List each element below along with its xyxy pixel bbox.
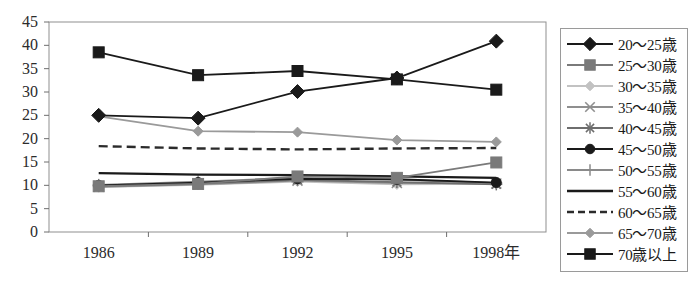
legend-item-label: 30～35歳 (615, 75, 676, 96)
y-axis-tick-label: 0 (0, 224, 38, 240)
legend-key-swatch (565, 160, 615, 180)
legend-item[interactable]: 60～65歳 (561, 201, 687, 222)
legend-item-label: 25～30歳 (615, 54, 676, 75)
legend-key-swatch (565, 244, 615, 264)
data-point-marker-square (491, 84, 502, 95)
legend-key-swatch (565, 118, 615, 138)
x-axis-tick-label: 1998年 (451, 245, 541, 261)
data-point-marker-circle (491, 178, 501, 188)
legend-item[interactable]: 50～55歳 (561, 159, 687, 180)
legend-marker-icon (565, 76, 615, 96)
data-point-marker-plus (584, 164, 595, 175)
y-axis-tick-label: 30 (0, 84, 38, 100)
data-point-marker-diamond (583, 37, 596, 50)
data-point-marker-square (93, 47, 104, 58)
x-axis-tick-label: 1986 (54, 245, 144, 261)
y-axis-tick-label: 10 (0, 177, 38, 193)
legend-key-swatch (565, 181, 615, 201)
data-point-marker-square (585, 59, 595, 69)
legend-item[interactable]: 20～25歳 (561, 33, 687, 54)
line-chart-svg (0, 0, 556, 272)
data-point-marker-square (491, 157, 502, 168)
y-axis-tick-label: 15 (0, 154, 38, 170)
y-axis-tick-label: 40 (0, 37, 38, 53)
legend-key-swatch (565, 139, 615, 159)
legend-marker-icon (565, 118, 615, 138)
data-point-marker-square (391, 172, 402, 183)
data-point-marker-circle (585, 144, 595, 154)
legend-item[interactable]: 35～40歳 (561, 96, 687, 117)
figure-caption (20, 282, 560, 290)
legend-item[interactable]: 40～45歳 (561, 117, 687, 138)
data-point-marker-small-diamond (585, 81, 595, 91)
legend-item-label: 70歳以上 (615, 243, 677, 264)
legend-item[interactable]: 55～60歳 (561, 180, 687, 201)
legend-marker-icon (565, 223, 615, 243)
legend-item-label: 60～65歳 (615, 201, 676, 222)
y-axis-tick-label: 5 (0, 201, 38, 217)
legend-item-label: 65～70歳 (615, 222, 676, 243)
legend-key-swatch (565, 34, 615, 54)
legend-marker-icon (565, 34, 615, 54)
legend-item[interactable]: 30～35歳 (561, 75, 687, 96)
data-point-marker-asterisk (584, 122, 595, 133)
legend-item[interactable]: 70歳以上 (561, 243, 687, 264)
legend-key-swatch (565, 97, 615, 117)
data-point-marker-square (193, 178, 204, 189)
y-axis-tick-label: 45 (0, 14, 38, 30)
legend-marker-icon (565, 181, 615, 201)
legend-marker-icon (565, 97, 615, 117)
data-point-marker-square (292, 171, 303, 182)
chart-legend: 20～25歳25～30歳30～35歳35～40歳40～45歳45～50歳50～5… (560, 28, 688, 272)
data-point-marker-square (93, 181, 104, 192)
legend-key-swatch (565, 202, 615, 222)
legend-item-label: 40～45歳 (615, 117, 676, 138)
legend-item-label: 35～40歳 (615, 96, 676, 117)
x-axis-tick-label: 1989 (153, 245, 243, 261)
legend-key-swatch (565, 76, 615, 96)
data-point-marker-square (292, 66, 303, 77)
legend-item-label: 20～25歳 (615, 33, 676, 54)
data-point-marker-small-diamond (585, 228, 595, 238)
data-point-marker-square (585, 248, 595, 258)
legend-marker-icon (565, 202, 615, 222)
legend-marker-icon (565, 160, 615, 180)
legend-marker-icon (565, 139, 615, 159)
legend-item[interactable]: 45～50歳 (561, 138, 687, 159)
legend-marker-icon (565, 244, 615, 264)
legend-item[interactable]: 25～30歳 (561, 54, 687, 75)
figure-container: 05101520253035404519861989199219951998年 … (0, 0, 691, 290)
legend-item[interactable]: 65～70歳 (561, 222, 687, 243)
y-axis-tick-label: 25 (0, 107, 38, 123)
legend-key-swatch (565, 223, 615, 243)
legend-item-label: 50～55歳 (615, 159, 676, 180)
y-axis-tick-label: 35 (0, 61, 38, 77)
legend-key-swatch (565, 55, 615, 75)
x-axis-tick-label: 1995 (352, 245, 442, 261)
data-point-marker-square (193, 70, 204, 81)
chart-plot-region: 05101520253035404519861989199219951998年 (0, 0, 556, 272)
x-axis-tick-label: 1992 (253, 245, 343, 261)
legend-marker-icon (565, 55, 615, 75)
legend-item-label: 45～50歳 (615, 138, 676, 159)
y-axis-tick-label: 20 (0, 131, 38, 147)
legend-item-label: 55～60歳 (615, 180, 676, 201)
